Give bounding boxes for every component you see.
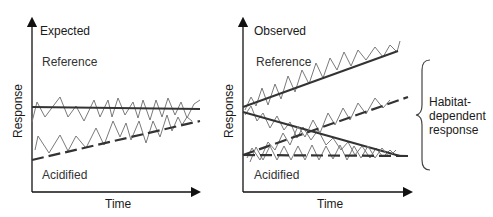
expected-panel — [32, 22, 200, 192]
acidified-label: Acidified — [42, 169, 87, 181]
diagram-canvas: Expected Reference Acidified Time Respon… — [0, 0, 493, 217]
falling-trend-line — [243, 112, 400, 156]
panel-title-expected: Expected — [40, 25, 90, 37]
x-axis-label: Time — [105, 198, 131, 210]
habitat-annotation: Habitat- dependent response — [429, 95, 486, 137]
acidified-label: Acidified — [254, 169, 299, 181]
x-axis-label: Time — [317, 198, 343, 210]
acidified-flat-zigzag — [250, 145, 396, 162]
reference-label: Reference — [256, 56, 311, 68]
annotation-line-1: Habitat- — [429, 95, 486, 109]
annotation-line-3: response — [429, 123, 486, 137]
acidified-flat-trend — [243, 155, 408, 156]
panel-title-observed: Observed — [254, 25, 306, 37]
acidified-zigzag — [35, 115, 192, 153]
observed-panel — [243, 22, 430, 192]
reference-label: Reference — [42, 56, 97, 68]
reference-trend-line — [32, 107, 200, 109]
y-axis-label: Response — [222, 84, 236, 138]
brace-icon — [416, 60, 430, 170]
annotation-line-2: dependent — [429, 109, 486, 123]
y-axis-label: Response — [11, 84, 25, 138]
